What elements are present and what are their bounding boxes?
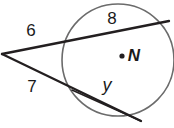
- label-upper-chord: 8: [107, 10, 116, 27]
- geometry-figure: 6 8 7 y N: [0, 0, 174, 128]
- geometry-canvas: [0, 0, 174, 128]
- label-upper-outer-segment: 6: [26, 22, 35, 39]
- circle-n: [62, 4, 174, 116]
- label-lower-chord: y: [103, 76, 112, 94]
- label-lower-outer-segment: 7: [27, 78, 36, 95]
- label-center-point-n: N: [128, 47, 140, 64]
- center-point-dot: [119, 53, 124, 58]
